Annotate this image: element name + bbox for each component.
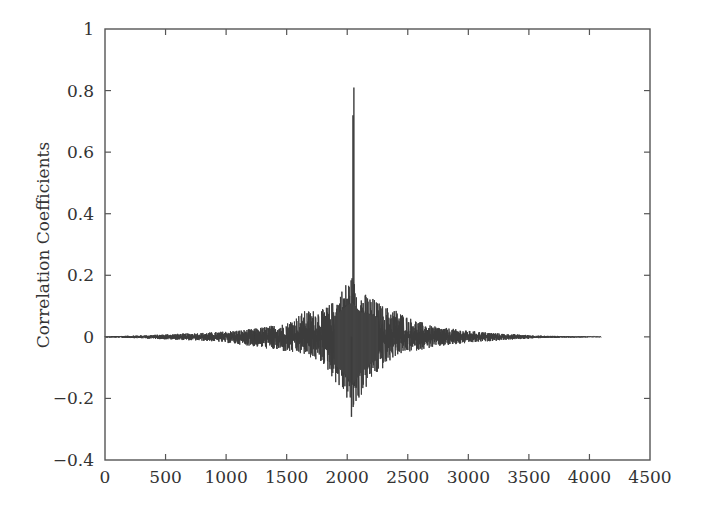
correlation-chart: 050010001500200025003000350040004500 10.… <box>0 0 702 513</box>
y-tick-label: 0.8 <box>67 81 94 101</box>
x-tick-label: 3000 <box>447 467 490 487</box>
y-tick-label: 0 <box>83 327 94 347</box>
x-tick-label: 2000 <box>326 467 369 487</box>
x-tick-label: 4000 <box>568 467 611 487</box>
plot-frame <box>105 29 650 460</box>
x-tick-label: 4500 <box>628 467 671 487</box>
y-tick-label: 1 <box>83 19 94 39</box>
y-tick-label: −0.2 <box>53 388 94 408</box>
correlation-series-line <box>105 87 601 416</box>
x-tick-label: 3500 <box>507 467 550 487</box>
x-tick-label: 500 <box>149 467 181 487</box>
x-tick-label: 2500 <box>386 467 429 487</box>
x-tick-label: 1500 <box>265 467 308 487</box>
y-tick-label: −0.4 <box>53 450 94 470</box>
y-tick-label: 0.2 <box>67 265 94 285</box>
x-axis-ticks: 050010001500200025003000350040004500 <box>100 29 672 487</box>
y-axis-label: Correlation Coefficients <box>33 142 53 348</box>
x-tick-label: 1000 <box>204 467 247 487</box>
x-tick-label: 0 <box>100 467 111 487</box>
y-tick-label: 0.4 <box>67 204 94 224</box>
y-tick-label: 0.6 <box>67 142 94 162</box>
